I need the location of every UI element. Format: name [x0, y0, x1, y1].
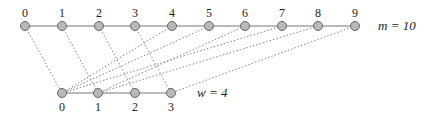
- mapping-edge: [62, 26, 98, 93]
- bottom-node: [94, 89, 103, 98]
- top-node-label: 1: [59, 6, 65, 20]
- top-node: [21, 22, 30, 31]
- top-node-label: 2: [96, 6, 102, 20]
- top-node: [205, 22, 214, 31]
- top-node-label: 5: [206, 6, 212, 20]
- top-node: [351, 22, 360, 31]
- bottom-row-label: w = 4: [197, 85, 227, 101]
- top-node: [168, 22, 177, 31]
- bottom-node-label: 3: [168, 100, 174, 114]
- top-node-label: 6: [242, 6, 248, 20]
- bottom-node-label: 2: [132, 100, 138, 114]
- bottom-node: [58, 89, 67, 98]
- top-node-label: 0: [22, 6, 28, 20]
- top-node-label: 4: [169, 6, 175, 20]
- top-node: [58, 22, 67, 31]
- mapping-edge: [98, 26, 245, 93]
- top-node: [241, 22, 250, 31]
- top-node-label: 9: [352, 6, 358, 20]
- top-node: [314, 22, 323, 31]
- top-node-label: 3: [132, 6, 138, 20]
- mapping-edge: [25, 26, 62, 93]
- top-node: [278, 22, 287, 31]
- mapping-edge: [171, 26, 355, 93]
- bottom-node-label: 1: [95, 100, 101, 114]
- mapping-edge: [62, 26, 172, 93]
- bottom-node-label: 0: [59, 100, 65, 114]
- mapping-diagram: 01234567890123: [0, 0, 434, 119]
- mapping-edge: [62, 26, 282, 93]
- top-node-label: 7: [279, 6, 285, 20]
- top-node: [131, 22, 140, 31]
- top-node: [95, 22, 104, 31]
- top-node-label: 8: [315, 6, 321, 20]
- mapping-edge: [62, 26, 209, 93]
- bottom-node: [131, 89, 140, 98]
- bottom-node: [167, 89, 176, 98]
- top-row-label: m = 10: [378, 18, 416, 34]
- mapping-edge: [135, 26, 171, 93]
- mapping-edge: [98, 26, 318, 93]
